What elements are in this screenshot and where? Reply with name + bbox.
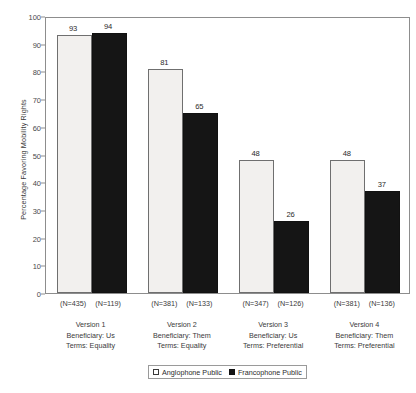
- x-axis-n-label: (N=119): [95, 299, 121, 308]
- bar-value-label: 81: [160, 58, 168, 67]
- y-axis-tick-label: 70: [0, 96, 41, 105]
- bar: [183, 113, 218, 293]
- bar-value-label: 65: [195, 102, 203, 111]
- y-axis-tick-label: 40: [0, 179, 41, 188]
- legend: Anglophone PublicFrancophone Public: [148, 365, 307, 379]
- x-axis-group-caption: Version 1Beneficiary: UsTerms: Equality: [66, 320, 115, 352]
- bar-value-label: 94: [104, 22, 112, 31]
- bar: [239, 160, 274, 293]
- x-axis-n-label: (N=133): [186, 299, 212, 308]
- legend-entry: Anglophone Public: [153, 368, 222, 377]
- y-axis-tick-label: 10: [0, 262, 41, 271]
- x-axis-terms-label: Terms: Equality: [66, 341, 115, 352]
- x-axis-n-label: (N=435): [60, 299, 86, 308]
- y-axis-tick-label: 20: [0, 234, 41, 243]
- x-axis-group-caption: Version 4Beneficiary: ThemTerms: Prefere…: [334, 320, 394, 352]
- bar: [274, 221, 309, 293]
- x-axis-n-label: (N=126): [278, 299, 304, 308]
- legend-swatch-dark-icon: [229, 369, 235, 375]
- plot-area: [45, 17, 410, 294]
- x-axis-terms-label: Terms: Equality: [153, 341, 211, 352]
- legend-entry: Francophone Public: [229, 368, 302, 377]
- x-axis-version-label: Version 1: [66, 320, 115, 331]
- bar-value-label: 93: [69, 24, 77, 33]
- x-axis-version-label: Version 3: [243, 320, 303, 331]
- bar: [148, 69, 183, 293]
- x-axis-n-label: (N=347): [243, 299, 269, 308]
- x-axis-group-caption: Version 2Beneficiary: ThemTerms: Equalit…: [153, 320, 211, 352]
- y-axis-tick-label: 100: [0, 13, 41, 22]
- bar: [330, 160, 365, 293]
- x-axis-beneficiary-label: Beneficiary: Us: [243, 331, 303, 342]
- x-axis-n-label: (N=381): [334, 299, 360, 308]
- x-axis-version-label: Version 2: [153, 320, 211, 331]
- legend-label: Francophone Public: [238, 368, 302, 377]
- bar-chart: Percentage Favoring Mobility Rights 0102…: [0, 0, 416, 393]
- x-axis-terms-label: Terms: Preferential: [243, 341, 303, 352]
- y-axis-tick-label: 60: [0, 123, 41, 132]
- y-axis-tick-label: 50: [0, 151, 41, 160]
- x-axis-group-caption: Version 3Beneficiary: UsTerms: Preferent…: [243, 320, 303, 352]
- y-axis-tick-label: 30: [0, 206, 41, 215]
- x-axis-beneficiary-label: Beneficiary: Us: [66, 331, 115, 342]
- x-axis-beneficiary-label: Beneficiary: Them: [334, 331, 394, 342]
- bar: [365, 191, 400, 293]
- x-axis-terms-label: Terms: Preferential: [334, 341, 394, 352]
- legend-label: Anglophone Public: [162, 368, 222, 377]
- x-axis-beneficiary-label: Beneficiary: Them: [153, 331, 211, 342]
- bar: [92, 33, 127, 293]
- y-axis-tick-label: 80: [0, 68, 41, 77]
- bar-value-label: 48: [343, 149, 351, 158]
- x-axis-n-label: (N=381): [151, 299, 177, 308]
- bar: [57, 35, 92, 293]
- y-axis-tick-label: 0: [0, 290, 41, 299]
- x-axis-n-label: (N=136): [369, 299, 395, 308]
- y-axis-tick-label: 90: [0, 40, 41, 49]
- bar-value-label: 48: [251, 149, 259, 158]
- x-axis-version-label: Version 4: [334, 320, 394, 331]
- bar-value-label: 37: [378, 180, 386, 189]
- bar-value-label: 26: [286, 210, 294, 219]
- legend-swatch-light-icon: [153, 369, 159, 375]
